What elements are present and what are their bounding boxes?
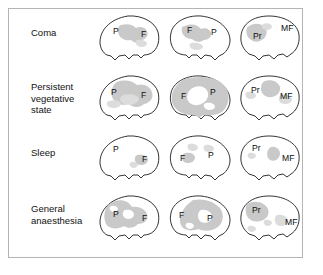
brain-general-anaesthesia-lateral-left: P F xyxy=(95,193,165,251)
brain-general-anaesthesia-medial: Pr MF xyxy=(235,193,305,251)
figure-row-sleep: Sleep P F xyxy=(9,133,302,193)
region-label-f: F xyxy=(181,91,186,101)
region-label-f: F xyxy=(142,213,147,223)
region-label-p: P xyxy=(113,26,119,36)
region-label-pr: Pr xyxy=(253,31,262,41)
figure-row-general-anaesthesia: General anaesthesia P F xyxy=(9,193,302,253)
brain-group-coma: P F F P xyxy=(95,13,305,73)
region-label-f: F xyxy=(187,25,192,35)
region-label-pr: Pr xyxy=(252,143,261,153)
region-label-f: F xyxy=(180,153,185,163)
figure-row-coma: Coma P F F xyxy=(9,13,302,73)
brain-sleep-medial: Pr MF xyxy=(235,133,305,191)
region-label-f: F xyxy=(141,90,146,100)
region-label-p: P xyxy=(113,144,119,154)
region-label-p: P xyxy=(208,150,214,160)
region-label-p: P xyxy=(111,87,117,97)
brain-pvs-medial: Pr MF xyxy=(235,73,305,131)
region-label-f: F xyxy=(179,210,184,220)
region-label-mf: MF xyxy=(280,91,292,101)
region-label-f: F xyxy=(141,29,146,39)
region-label-p: P xyxy=(210,87,216,97)
brain-general-anaesthesia-lateral-right: F P xyxy=(165,193,235,251)
figure-frame: Coma P F F xyxy=(8,8,303,258)
region-label-pr: Pr xyxy=(251,85,260,95)
brain-activity-figure: Coma P F F xyxy=(0,0,323,275)
region-label-mf: MF xyxy=(285,217,297,227)
brain-group-general-anaesthesia: P F F P xyxy=(95,193,305,253)
region-label-p: P xyxy=(113,209,119,219)
brain-coma-lateral-left: P F xyxy=(95,13,165,71)
figure-row-pvs: Persistent vegetative state P F xyxy=(9,73,302,133)
region-label-f: F xyxy=(142,154,147,164)
brain-group-pvs: P F F P xyxy=(95,73,305,133)
region-label-p: P xyxy=(207,213,213,223)
brain-sleep-lateral-left: P F xyxy=(95,133,165,191)
brain-pvs-lateral-right: F P xyxy=(165,73,235,131)
brain-sleep-lateral-right: F P xyxy=(165,133,235,191)
brain-coma-medial: Pr MF xyxy=(235,13,305,71)
region-label-mf: MF xyxy=(282,153,294,163)
region-label-pr: Pr xyxy=(252,205,261,215)
region-label-mf: MF xyxy=(281,23,293,33)
brain-coma-lateral-right: F P xyxy=(165,13,235,71)
region-label-p: P xyxy=(211,27,217,37)
brain-group-sleep: P F F P xyxy=(95,133,305,193)
brain-pvs-lateral-left: P F xyxy=(95,73,165,131)
